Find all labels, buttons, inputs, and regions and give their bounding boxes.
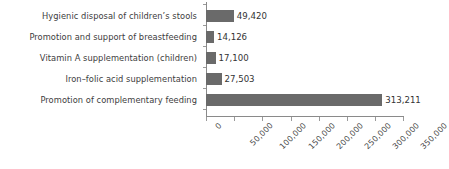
bar-value-2: 17,100 [219,52,249,64]
bar-0[interactable] [206,10,234,22]
y-axis-tick [203,67,206,68]
bar-1[interactable] [206,31,214,43]
x-tick-label-0: 0 [214,121,224,131]
y-axis-tick [203,25,206,26]
plot-area: 49,420 14,126 17,100 27,503 313,211 [206,0,431,117]
bar-4[interactable] [206,94,382,106]
x-tick-label-5: 250,000 [363,121,393,151]
bar-3[interactable] [206,73,222,85]
x-tick-label-7: 350,000 [419,121,449,151]
x-tick-label-4: 200,000 [335,121,365,151]
category-label-1: Promotion and support of breastfeeding [0,32,197,42]
bar-value-0: 49,420 [237,10,267,22]
y-axis-tick [203,4,206,5]
category-label-2: Vitamin A supplementation (children) [0,53,197,63]
x-tick-label-1: 50,000 [248,121,275,148]
bar-value-1: 14,126 [217,31,247,43]
y-axis-tick [203,46,206,47]
y-axis-tick [203,88,206,89]
bar-value-4: 313,211 [385,94,421,106]
x-axis-tick-labels: 0 50,000 100,000 150,000 200,000 250,000… [206,117,431,169]
y-axis-tick [203,109,206,110]
x-tick-label-2: 100,000 [278,121,308,151]
category-axis-labels: Hygienic disposal of children’s stools P… [0,0,202,117]
category-label-4: Promotion of complementary feeding [0,95,197,105]
x-tick-label-3: 150,000 [307,121,337,151]
category-label-0: Hygienic disposal of children’s stools [0,11,197,21]
x-tick-label-6: 300,000 [391,121,421,151]
bar-2[interactable] [206,52,216,64]
bar-value-3: 27,503 [225,73,255,85]
category-label-3: Iron–folic acid supplementation [0,74,197,84]
